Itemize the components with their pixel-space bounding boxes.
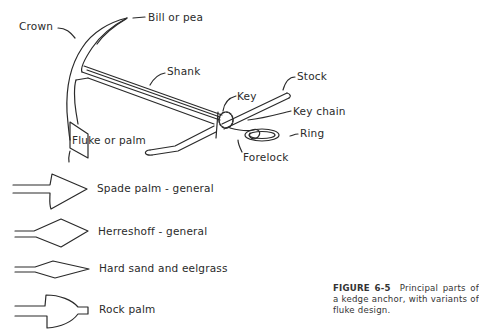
label-spade-palm: Spade palm - general (97, 182, 214, 194)
label-herreshoff: Herreshoff - general (98, 225, 207, 237)
label-key: Key (237, 90, 257, 102)
label-fluke: Fluke or palm (72, 134, 146, 146)
label-hard-sand: Hard sand and eelgrass (99, 262, 228, 274)
anchor-shank (82, 66, 222, 124)
fluke-hard-sand-shape (15, 261, 89, 278)
anchor-stock (145, 93, 290, 155)
fluke-herreshoff-shape (15, 219, 88, 247)
label-rock-palm: Rock palm (99, 303, 155, 315)
fluke-rock-palm-shape (15, 295, 88, 328)
fluke-spade-palm-shape (13, 174, 87, 209)
anchor-ring (230, 128, 279, 141)
label-crown: Crown (19, 20, 53, 32)
figure-caption: FIGURE 6-5 Principal parts of a kedge an… (333, 283, 479, 316)
label-bill: Bill or pea (148, 11, 203, 23)
figure-id: FIGURE 6-5 (333, 283, 391, 293)
label-forelock: Forelock (243, 151, 288, 163)
label-key-chain: Key chain (293, 105, 346, 117)
label-ring: Ring (300, 127, 324, 139)
label-shank: Shank (167, 65, 201, 77)
label-stock: Stock (297, 70, 327, 82)
